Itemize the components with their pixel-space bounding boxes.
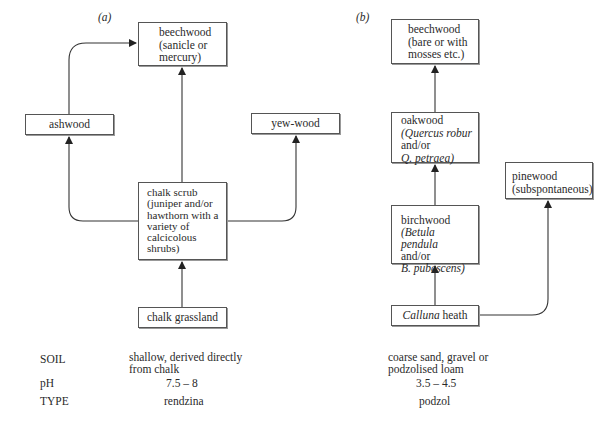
row-label-soil: SOIL [40,354,66,366]
connector-arrows [0,0,613,425]
node-beechwood-a: beechwood (sanicle or mercury) [138,22,227,66]
node-text: and/or [401,139,474,152]
node-chalk-grassland: chalk grassland [138,307,227,328]
node-ashwood: ashwood [25,114,114,135]
node-text: chalk grassland [147,311,218,323]
ph-a: 7.5 – 8 [166,378,198,390]
node-text: oakwood [401,114,474,127]
node-text: yew-wood [271,117,320,129]
row-label-ph: pH [40,378,54,390]
node-calluna-heath: Calluna heath [391,305,479,326]
node-text: (sanicle or [159,39,220,52]
node-text: and/or [401,250,474,262]
node-chalk-scrub: chalk scrub (juniper and/or hawthorn wit… [138,182,227,260]
node-text: beechwood [408,23,472,36]
node-text-italic: Q. petraea) [401,152,454,164]
node-text: ashwood [49,118,90,130]
node-pinewood: pinewood (subspontaneous) [505,162,593,199]
soil-b-line: podzolised loam [388,364,488,376]
node-text: (juniper and/or [147,198,221,209]
node-text-italic: Calluna [403,309,440,321]
type-a: rendzina [164,396,204,408]
node-text: heath [440,309,468,321]
node-text: beechwood [159,26,220,39]
node-text-italic: B. pubescens) [401,262,465,274]
soil-a-line: from chalk [129,364,242,376]
panel-a-label: (a) [98,11,111,23]
soil-a: shallow, derived directly from chalk [129,352,242,375]
type-b: podzol [419,396,450,408]
node-text: birchwood [401,214,474,226]
ph-b: 3.5 – 4.5 [416,378,456,390]
node-text-italic: (Quercus robur [401,127,472,139]
node-text: (bare or with [408,36,472,49]
node-text: shrubs) [147,243,221,254]
node-yewwood: yew-wood [251,113,340,134]
soil-a-line: shallow, derived directly [129,352,242,364]
panel-b-label: (b) [356,11,369,23]
node-beechwood-b: beechwood (bare or with mosses etc.) [391,19,479,64]
row-label-type: TYPE [40,396,69,408]
node-text: (subspontaneous) [512,183,589,196]
node-text-italic: (Betula pendula [401,226,438,250]
node-birchwood: birchwood (Betula pendula and/or B. pube… [391,205,479,264]
soil-b-line: coarse sand, gravel or [388,352,488,364]
node-text: pinewood [512,170,589,183]
soil-b: coarse sand, gravel or podzolised loam [388,352,488,375]
node-oakwood: oakwood (Quercus robur and/or Q. petraea… [391,112,479,163]
node-text: mercury) [159,51,220,64]
node-text: mosses etc.) [408,48,472,61]
